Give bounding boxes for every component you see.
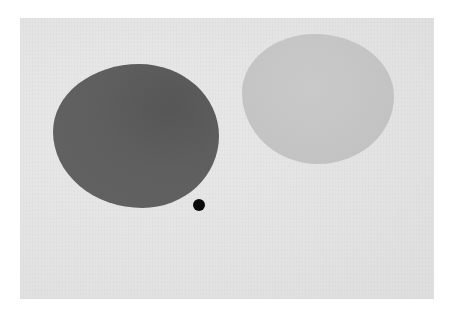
black-dot [193,199,205,211]
artwork-frame [0,0,450,317]
